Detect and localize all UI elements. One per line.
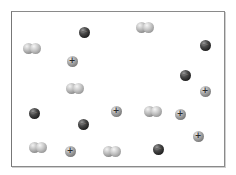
atom-icon bbox=[151, 106, 162, 117]
ion-sphere: − bbox=[180, 70, 191, 81]
ion-sphere: + bbox=[193, 131, 204, 142]
plus-sign: + bbox=[113, 107, 120, 115]
atom-icon bbox=[30, 43, 41, 54]
minus-sign: − bbox=[202, 41, 209, 49]
ion-sphere: + bbox=[67, 56, 78, 67]
minus-sign: − bbox=[155, 145, 162, 153]
plus-sign: + bbox=[67, 147, 74, 155]
ion-sphere: − bbox=[78, 119, 89, 130]
ion-sphere: − bbox=[200, 40, 211, 51]
plus-sign: + bbox=[69, 57, 76, 65]
ion-sphere: − bbox=[153, 144, 164, 155]
ion-sphere: − bbox=[79, 27, 90, 38]
ion-sphere: + bbox=[175, 109, 186, 120]
plus-sign: + bbox=[177, 110, 184, 118]
minus-sign: − bbox=[182, 71, 189, 79]
minus-sign: − bbox=[80, 120, 87, 128]
minus-sign: − bbox=[31, 109, 38, 117]
ion-sphere: − bbox=[29, 108, 40, 119]
atom-icon bbox=[36, 142, 47, 153]
plus-sign: + bbox=[202, 87, 209, 95]
atom-icon bbox=[143, 22, 154, 33]
plus-sign: + bbox=[195, 132, 202, 140]
atom-icon bbox=[110, 146, 121, 157]
atom-icon bbox=[73, 83, 84, 94]
ion-sphere: + bbox=[200, 86, 211, 97]
minus-sign: − bbox=[81, 28, 88, 36]
ion-sphere: + bbox=[111, 106, 122, 117]
ion-sphere: + bbox=[65, 146, 76, 157]
